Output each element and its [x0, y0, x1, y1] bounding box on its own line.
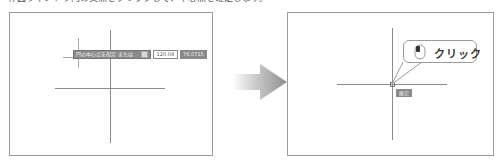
- y-coordinate-input[interactable]: 76.0715: [180, 50, 207, 59]
- x-coordinate-input[interactable]: 120.04: [153, 50, 179, 59]
- right-arrow-icon: [232, 64, 287, 100]
- vertical-axis-line: [110, 30, 111, 143]
- mouse-left-click-icon: [414, 44, 426, 60]
- click-label: クリック: [434, 45, 482, 61]
- confirm-badge: 確定: [396, 89, 412, 97]
- horizontal-axis-line: [55, 88, 165, 89]
- before-drawing-area: [9, 12, 213, 156]
- click-callout: クリック: [403, 40, 477, 63]
- prompt-text: 円の中心点を指定 または: [76, 50, 133, 59]
- options-dropdown-icon[interactable]: [141, 51, 148, 58]
- instruction-text: 作図ウィンドウ内の交点をクリックして、中心点を確定します。: [8, 0, 428, 3]
- command-prompt: 円の中心点を指定 または: [73, 50, 151, 59]
- dynamic-input-bar: 円の中心点を指定 または 120.04 76.0715: [73, 50, 207, 59]
